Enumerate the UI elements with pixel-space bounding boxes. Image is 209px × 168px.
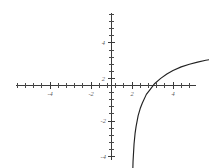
x-tick-label-neg2: -2 (88, 90, 94, 97)
x-tick-label-pos2: 2 (130, 90, 134, 97)
coordinate-plot: -4 -2 2 4 (0, 0, 209, 168)
y-tick-label-pos4: 4 (102, 39, 106, 46)
y-tick-label-pos2: 2 (102, 75, 106, 82)
x-axis-group: -4 -2 2 4 (16, 82, 196, 97)
logarithmic-curve (132, 58, 209, 168)
y-tick-label-neg4: -4 (101, 153, 107, 160)
x-tick-label-neg4: -4 (47, 90, 53, 97)
plot-canvas: -4 -2 2 4 (0, 0, 209, 168)
x-tick-label-pos4: 4 (171, 90, 175, 97)
y-tick-label-neg2: -2 (101, 117, 107, 124)
